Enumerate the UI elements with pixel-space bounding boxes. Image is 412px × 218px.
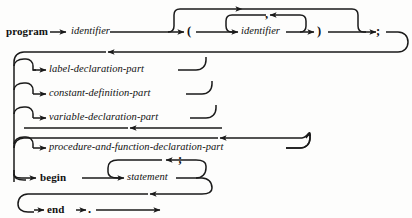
begin-branch-elbow <box>14 174 24 178</box>
label-branch-corner <box>14 59 33 66</box>
node-identifier-program-name: identifier <box>71 26 110 37</box>
node-paren-close: ) <box>317 25 321 38</box>
node-end-keyword: end <box>47 204 64 215</box>
node-variable-declaration-part: variable-declaration-part <box>49 112 158 123</box>
node-period: . <box>88 203 91 216</box>
label-branch-return <box>178 57 206 70</box>
node-identifier-parameter: identifier <box>241 26 280 37</box>
railroad-track-lines <box>0 0 412 218</box>
variable-branch-return <box>190 105 216 118</box>
constant-branch-corner <box>14 83 33 94</box>
node-semicolon-statement-separator: ; <box>178 153 182 166</box>
node-begin-keyword: begin <box>40 172 66 183</box>
node-constant-definition-part: constant-definition-part <box>49 88 151 99</box>
node-statement: statement <box>127 172 168 183</box>
node-program-keyword: program <box>6 26 48 37</box>
constant-branch-return <box>186 81 212 94</box>
node-label-declaration-part: label-declaration-part <box>49 64 144 75</box>
node-comma-separator: , <box>265 8 268 21</box>
node-procedure-and-function-declaration-part: procedure-and-function-declaration-part <box>49 142 223 153</box>
header-wrap-right <box>330 32 408 52</box>
node-semicolon-header: ; <box>376 25 380 38</box>
node-paren-open: ( <box>187 25 191 38</box>
param-loop-right-riser <box>286 15 306 32</box>
param-bypass-riser <box>168 9 196 32</box>
syntax-diagram-canvas: program identifier ( identifier , ) ; la… <box>0 0 412 218</box>
statement-exit-wrap <box>170 178 212 194</box>
variable-branch-corner <box>14 107 33 118</box>
